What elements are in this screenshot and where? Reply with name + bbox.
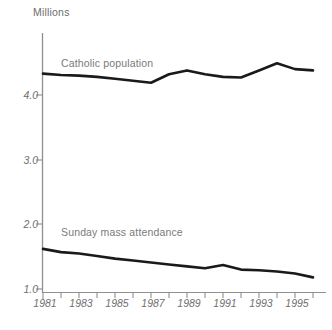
- x-tick-labels: 1981 1983 1985 1987 1989 1991 1993 1995: [0, 297, 332, 317]
- x-tick-label-1981: 1981: [33, 297, 56, 309]
- x-tick-label-1991: 1991: [213, 297, 236, 309]
- y-tick-label-4: 4.0: [10, 89, 38, 101]
- series-annotation-sunday-mass-attendance: Sunday mass attendance: [61, 226, 183, 238]
- chart-figure: Millions: [0, 0, 332, 330]
- plot-area: [0, 0, 332, 330]
- x-tick-label-1983: 1983: [69, 297, 92, 309]
- y-tick-labels: 4.0 3.0 2.0 1.0: [8, 0, 38, 330]
- y-tick-label-1: 1.0: [10, 283, 38, 295]
- x-tick-label-1995: 1995: [285, 297, 308, 309]
- series-line-sunday-mass-attendance: [43, 249, 313, 277]
- y-tick-label-3: 3.0: [10, 154, 38, 166]
- x-tick-label-1989: 1989: [177, 297, 200, 309]
- x-tick-label-1993: 1993: [249, 297, 272, 309]
- x-tick-label-1985: 1985: [105, 297, 128, 309]
- y-tick-label-2: 2.0: [10, 218, 38, 230]
- series-annotation-catholic-population: Catholic population: [61, 57, 153, 69]
- x-tick-label-1987: 1987: [141, 297, 164, 309]
